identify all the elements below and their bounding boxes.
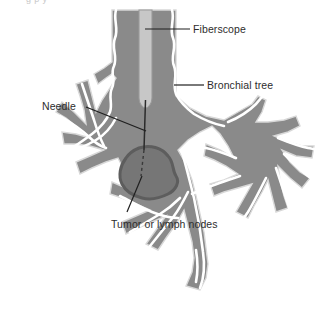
fiberscope-tube: [139, 10, 152, 108]
airway-body: [56, 10, 314, 290]
illustration-canvas: g p y: [0, 0, 334, 328]
right-stem-lumen-2: [196, 250, 198, 282]
label-fiberscope: Fiberscope: [193, 23, 246, 35]
bronchoscopy-illustration: [0, 0, 334, 328]
bronchial-tree-shape: [56, 10, 322, 290]
right-branch-lumen-1: [262, 108, 306, 116]
label-bronchial-tree: Bronchial tree: [207, 79, 273, 91]
label-tumor-or-lymph-nodes: Tumor or lymph nodes: [111, 218, 218, 230]
label-needle: Needle: [42, 100, 76, 112]
